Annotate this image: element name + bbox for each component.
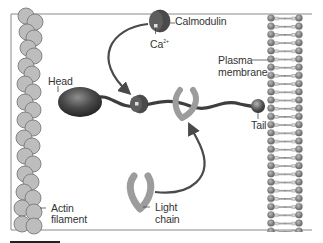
bound-calmodulin (130, 95, 148, 113)
label-filament: filament (51, 214, 87, 225)
label-tail: Tail (251, 120, 266, 131)
myosin-tail (251, 99, 265, 113)
label-light: Light (155, 202, 177, 213)
plasma-membrane (267, 14, 303, 232)
myosin-head (58, 87, 102, 117)
label-chain: chain (155, 214, 180, 225)
calcium-charge: 2+ (163, 38, 169, 44)
calmodulin-binding-arrow (108, 24, 148, 92)
label-calmodulin: Calmodulin (175, 16, 227, 27)
label-membrane: membrane (218, 67, 267, 78)
calcium-symbol: Ca (150, 38, 163, 50)
myosin-neck-tail (95, 97, 263, 109)
free-light-chain (130, 176, 151, 209)
label-head: Head (48, 76, 73, 87)
label-calcium: Ca2+ (150, 36, 169, 50)
label-plasma: Plasma (218, 55, 252, 66)
light-chain-binding-arrow (155, 126, 204, 193)
actin-filament (14, 8, 43, 234)
myosin-diagram: Calmodulin Ca2+ Plasma membrane Head Tai… (0, 0, 323, 243)
